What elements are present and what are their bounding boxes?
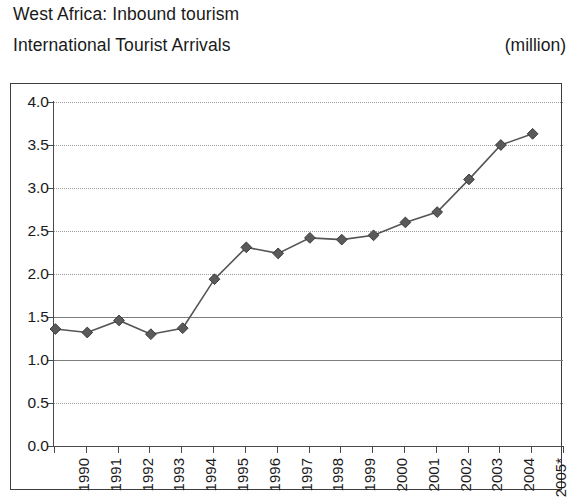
- data-point-marker: [177, 323, 188, 334]
- x-tick-mark: [340, 446, 341, 453]
- x-tick-mark: [245, 446, 246, 453]
- x-tick-label: 1994: [203, 458, 218, 491]
- data-point-marker: [400, 217, 411, 228]
- data-point-marker: [368, 230, 379, 241]
- x-tick-mark: [436, 446, 437, 453]
- x-tick-mark: [499, 446, 500, 453]
- x-tick-label: 1992: [140, 458, 155, 491]
- x-tick-label: 2002: [458, 458, 473, 491]
- x-tick-mark: [213, 446, 214, 453]
- x-tick-label: 2003: [489, 458, 504, 491]
- chart-subtitle: International Tourist Arrivals: [13, 35, 231, 56]
- x-tick-mark: [468, 446, 469, 453]
- x-tick-mark: [54, 446, 55, 453]
- series-polyline: [55, 134, 532, 334]
- unit-label: (million): [505, 35, 566, 56]
- chart-frame: 4.03.53.02.52.01.51.00.50.0 199019911992…: [10, 83, 562, 490]
- x-tick-label: 1996: [267, 458, 282, 491]
- series-line-arrivals: [11, 84, 563, 491]
- x-tick-label: 1990: [76, 458, 91, 491]
- x-tick-mark: [118, 446, 119, 453]
- data-point-marker: [82, 327, 93, 338]
- data-point-marker: [114, 315, 125, 326]
- x-tick-mark: [404, 446, 405, 453]
- x-tick-label: 1998: [330, 458, 345, 491]
- x-tick-label: 1997: [299, 458, 314, 491]
- x-tick-label: 2004: [521, 458, 536, 491]
- x-tick-label: 1995: [235, 458, 250, 491]
- page-title: West Africa: Inbound tourism: [13, 4, 239, 25]
- x-tick-label: 1993: [171, 458, 186, 491]
- x-tick-mark: [372, 446, 373, 453]
- data-point-marker: [336, 234, 347, 245]
- x-tick-label: 2001: [426, 458, 441, 491]
- data-point-marker: [305, 232, 316, 243]
- chart-heading: West Africa: Inbound tourism Internation…: [0, 0, 576, 80]
- x-tick-label: 1991: [108, 458, 123, 491]
- x-tick-mark: [563, 446, 564, 453]
- x-tick-mark: [149, 446, 150, 453]
- x-tick-mark: [309, 446, 310, 453]
- x-tick-label: 2000: [394, 458, 409, 491]
- data-point-marker: [527, 128, 538, 139]
- x-tick-mark: [181, 446, 182, 453]
- x-tick-mark: [277, 446, 278, 453]
- x-tick-label: 1999: [362, 458, 377, 491]
- bottom-strip: [0, 490, 576, 504]
- data-point-marker: [273, 248, 284, 259]
- data-point-marker: [50, 324, 61, 335]
- x-tick-mark: [531, 446, 532, 453]
- x-tick-mark: [86, 446, 87, 453]
- data-point-marker: [145, 329, 156, 340]
